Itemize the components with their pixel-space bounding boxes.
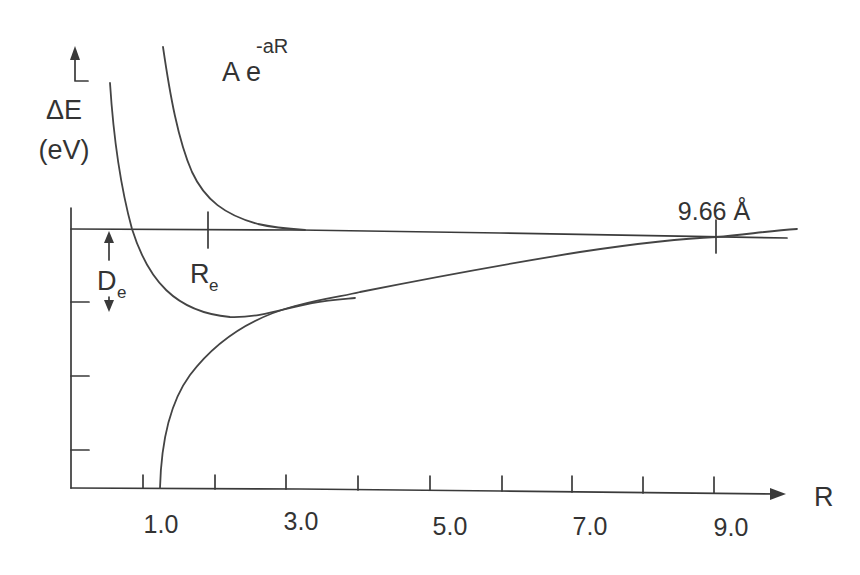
x-tick-label: 3.0: [284, 507, 319, 535]
repulsive-term-base: A e: [222, 57, 261, 87]
ionic-curve: [160, 229, 797, 488]
covalent-curve: [110, 83, 355, 317]
x-tick-label: 9.0: [714, 513, 749, 541]
x-axis-line: [71, 488, 782, 494]
y-axis-arrow-icon: [70, 46, 80, 60]
y-axis-arrow-line: [75, 58, 88, 81]
zero-energy-line: [71, 229, 787, 238]
x-tick-label: 7.0: [573, 512, 608, 540]
re-label-subscript: e: [209, 276, 218, 295]
potential-energy-chart: 1.0 3.0 5.0 7.0 9.0 R ΔE (eV) 9.66 Å A e…: [0, 0, 860, 575]
x-axis-arrow-icon: [770, 488, 786, 500]
re-label: R: [190, 259, 210, 289]
x-tick-label: 5.0: [433, 512, 468, 540]
de-label: D: [97, 266, 117, 296]
y-axis-label-delta-e: ΔE: [46, 95, 82, 125]
de-arrow-up-icon: [104, 231, 114, 243]
crossing-distance-label: 9.66 Å: [678, 196, 751, 225]
y-axis-label-unit: (eV): [38, 135, 89, 165]
x-axis-label: R: [814, 482, 834, 512]
de-label-subscript: e: [117, 283, 126, 302]
repulsive-term-exponent: -aR: [256, 35, 288, 57]
x-tick-label: 1.0: [144, 510, 179, 538]
